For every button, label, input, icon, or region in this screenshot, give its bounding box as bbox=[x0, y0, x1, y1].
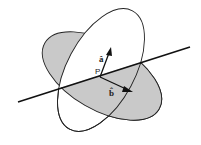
diagram-canvas: P â b̂ bbox=[0, 0, 201, 145]
planes-diagram: P â b̂ bbox=[0, 0, 201, 145]
vector-a-label: â bbox=[99, 54, 104, 64]
vector-b-label: b̂ bbox=[109, 87, 114, 98]
point-p-label: P bbox=[95, 67, 100, 76]
